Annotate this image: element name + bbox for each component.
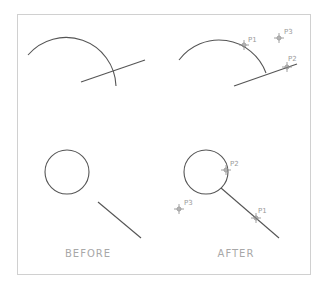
after-label: AFTER [218,248,255,259]
after-circle-line: P2 P3 P1 [174,150,279,238]
after-line-2 [221,188,279,238]
point-label-p3: P3 [184,199,193,207]
after-circle [184,150,228,194]
before-label: BEFORE [65,248,111,259]
after-arc-line: P1 P2 P3 [179,28,297,86]
point-label-p1: P1 [258,207,267,215]
before-arc-line [28,37,145,86]
crosshair-marker-icon [174,204,184,214]
before-circle-line [45,150,141,238]
before-arc [28,37,116,86]
point-label-p2: P2 [288,55,297,63]
point-label-p2: P2 [230,160,239,168]
after-arc [179,40,266,73]
drawing-frame [18,15,311,275]
crosshair-marker-icon [282,62,292,72]
before-line-2 [98,202,141,238]
point-label-p1: P1 [248,36,257,44]
before-circle [45,150,89,194]
fillet-before-after-diagram: P1 P2 P3 P2 P3 P1 BEFORE AFTER [0,0,326,290]
point-label-p3: P3 [284,28,293,36]
crosshair-marker-icon [274,33,284,43]
before-line [81,60,145,82]
